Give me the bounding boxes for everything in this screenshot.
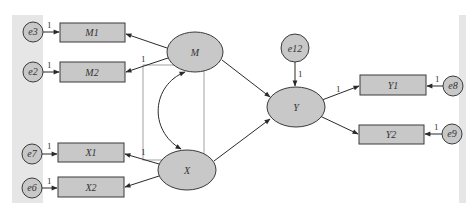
label-e8-y1: 1 xyxy=(435,74,440,84)
observed-y2-label: Y2 xyxy=(386,129,397,140)
edge-x-x2[interactable] xyxy=(125,176,159,187)
label-x-x1: 1 xyxy=(141,147,146,157)
error-e2-label: e2 xyxy=(28,66,37,77)
label-y-y1: 1 xyxy=(336,84,341,94)
right-panel-strip xyxy=(459,15,466,203)
error-e3-label: e3 xyxy=(28,26,37,37)
edge-y-y1[interactable] xyxy=(322,86,359,100)
error-e6-label: e6 xyxy=(27,182,36,193)
label-e3-m1: 1 xyxy=(47,20,52,30)
error-e12-label: e12 xyxy=(288,43,302,54)
label-e7-x1: 1 xyxy=(47,141,52,151)
error-e7-label: e7 xyxy=(27,148,37,159)
label-e2-m2: 1 xyxy=(47,60,52,70)
observed-x2-label: X2 xyxy=(84,182,96,193)
edge-y-y2[interactable] xyxy=(320,116,358,134)
edge-x-y[interactable] xyxy=(214,119,270,161)
observed-x1-label: X1 xyxy=(84,147,96,158)
label-e9-y2: 1 xyxy=(434,122,439,132)
observed-y1-label: Y1 xyxy=(388,80,399,91)
label-e12-y: 1 xyxy=(298,69,303,79)
edge-m-m1[interactable] xyxy=(126,34,167,48)
left-panel-strip xyxy=(12,15,43,203)
observed-m1-label: M1 xyxy=(84,27,98,38)
error-e8-label: e8 xyxy=(448,80,457,91)
latent-x-label: X xyxy=(183,165,191,176)
latent-m-label: M xyxy=(190,47,200,58)
observed-m2-label: M2 xyxy=(84,67,98,78)
label-m-m2: 1 xyxy=(141,54,146,64)
label-e6-x2: 1 xyxy=(47,176,52,186)
error-e9-label: e9 xyxy=(447,128,456,139)
sem-diagram-canvas: 1 1 1 1 1 1 1 1 1 1 M1 M2 X1 X2 Y1 Y2 M … xyxy=(0,0,475,212)
edge-m-y[interactable] xyxy=(222,60,270,97)
covariance-m-x[interactable] xyxy=(158,72,185,149)
